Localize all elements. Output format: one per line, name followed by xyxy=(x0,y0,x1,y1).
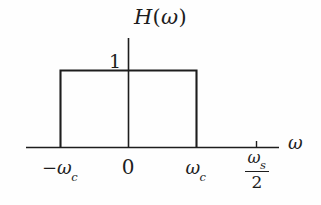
plot-title: H(ω) xyxy=(0,7,321,28)
title-function: H xyxy=(134,5,153,29)
sampling-subscript: s xyxy=(260,158,266,172)
sampling-symbol: ω xyxy=(248,148,261,167)
title-argument: ω xyxy=(161,5,178,29)
fraction-numerator: ωs xyxy=(245,150,270,170)
x-tick-label-positive-cutoff: ωc xyxy=(166,159,226,181)
x-tick-label-zero: 0 xyxy=(108,157,148,177)
title-close-paren: ) xyxy=(179,5,188,29)
fraction-ws-over-2: ωs 2 xyxy=(245,150,270,192)
neg-cutoff-symbol: −ω xyxy=(42,157,72,178)
pos-cutoff-subscript: c xyxy=(200,170,206,184)
x-tick-label-sampling-half: ωs 2 xyxy=(231,150,283,192)
title-open-paren: ( xyxy=(153,5,162,29)
x-axis-name: ω xyxy=(288,134,303,152)
neg-cutoff-subscript: c xyxy=(71,170,77,184)
x-tick-label-negative-cutoff: −ωc xyxy=(22,159,98,181)
pos-cutoff-symbol: ω xyxy=(185,157,200,178)
y-axis-label-one: 1 xyxy=(95,52,121,71)
filter-response-figure: H(ω) 1 −ωc 0 ωc ωs 2 ω xyxy=(0,0,321,205)
fraction-denominator: 2 xyxy=(245,173,270,192)
